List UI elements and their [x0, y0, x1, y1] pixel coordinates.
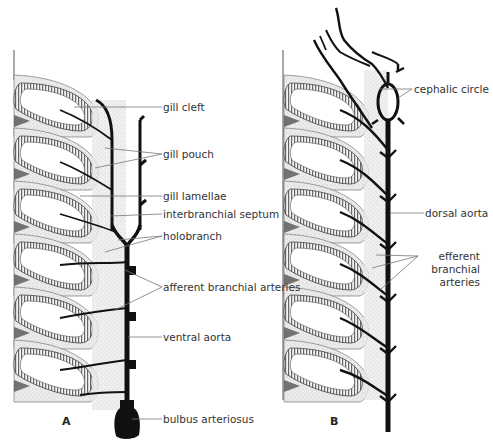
- label-gill-cleft: gill cleft: [163, 101, 205, 113]
- panel-letter-b: B: [330, 415, 338, 428]
- panel-a-drawing: [14, 50, 146, 439]
- label-holobranch: holobranch: [163, 230, 222, 242]
- panel-b-drawing: [283, 8, 404, 432]
- gill-circulation-diagram: gill cleft gill pouch gill lamellae inte…: [0, 0, 493, 447]
- label-cephalic-circle: cephalic circle: [414, 83, 489, 95]
- label-afferent-branchial-arteries: afferent branchial arteries: [163, 281, 300, 293]
- label-bulbus-arteriosus: bulbus arteriosus: [163, 413, 254, 425]
- label-dorsal-aorta: dorsal aorta: [425, 207, 488, 219]
- label-gill-pouch: gill pouch: [163, 148, 214, 160]
- label-ventral-aorta: ventral aorta: [163, 331, 231, 343]
- label-efferent-branchial-arteries: efferent branchial arteries: [420, 250, 480, 289]
- label-gill-lamellae: gill lamellae: [163, 190, 227, 202]
- panel-letter-a: A: [62, 415, 71, 428]
- label-interbranchial-septum: interbranchial septum: [163, 208, 279, 220]
